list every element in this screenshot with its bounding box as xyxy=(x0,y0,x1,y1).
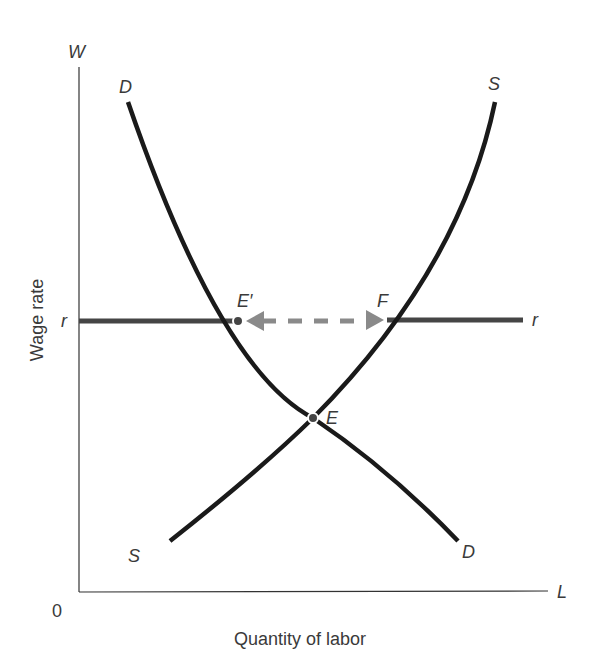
arrowhead-right-icon xyxy=(366,310,384,330)
origin-label: 0 xyxy=(52,601,62,621)
point-e-prime-marker xyxy=(233,316,243,326)
y-axis-letter: W xyxy=(68,42,87,62)
point-e-prime-label: E′ xyxy=(237,291,253,311)
supply-top-label: S xyxy=(488,74,500,94)
x-axis-title: Quantity of labor xyxy=(234,629,366,649)
y-axis-title: Wage rate xyxy=(27,279,47,361)
x-axis-letter: L xyxy=(557,582,567,602)
arrowhead-left-icon xyxy=(246,311,264,331)
point-f-label: F xyxy=(377,291,389,311)
wage-left-label: r xyxy=(61,311,68,331)
demand-top-label: D xyxy=(119,77,132,97)
point-e-marker xyxy=(308,413,318,423)
point-e-label: E xyxy=(326,408,339,428)
wage-right-label: r xyxy=(532,310,539,330)
x-axis xyxy=(79,591,548,592)
labor-market-diagram: W L 0 Quantity of labor Wage rate D D S … xyxy=(0,0,597,665)
demand-bottom-label: D xyxy=(462,542,475,562)
supply-bottom-label: S xyxy=(128,546,140,566)
